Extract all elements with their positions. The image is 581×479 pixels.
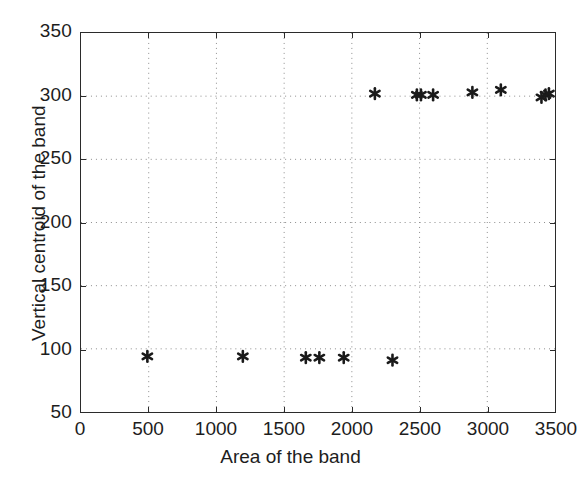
x-tick-mark [352,407,353,413]
y-tick-mark [550,96,556,97]
x-tick-mark [148,407,149,413]
x-tick-mark [488,32,489,38]
x-tick-mark [148,32,149,38]
y-tick-mark [550,159,556,160]
x-tick-mark [488,407,489,413]
x-tick-mark [420,407,421,413]
y-tick-mark [550,223,556,224]
y-tick-mark [80,159,86,160]
x-tick-mark [284,407,285,413]
y-tick-mark [80,286,86,287]
x-tick-mark [216,32,217,38]
x-axis-title: Area of the band [0,446,581,468]
y-tick-mark [80,223,86,224]
figure-canvas: 50100150200250300350 0500100015002000250… [0,0,581,479]
x-tick-mark [420,32,421,38]
x-tick-mark [352,32,353,38]
x-tick-mark [284,32,285,38]
y-tick-mark [550,350,556,351]
y-tick-mark [80,96,86,97]
y-tick-mark [550,286,556,287]
y-axis-title: Vertical centroid of the band [28,105,50,341]
y-tick-mark [80,350,86,351]
x-tick-mark [216,407,217,413]
axis-tick-marks [0,0,581,479]
